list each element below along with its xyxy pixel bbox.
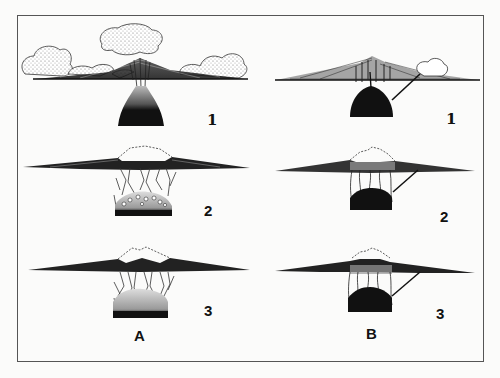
former-summit-outline: [350, 147, 395, 161]
former-summit-outline: [118, 247, 170, 259]
stage-label-b1: 1: [446, 112, 456, 127]
former-summit-outline: [118, 146, 172, 158]
column-label-b: B: [366, 326, 377, 341]
caldera-cone: [28, 258, 250, 272]
stage-label-a2: 2: [204, 203, 212, 218]
flank-dike: [392, 272, 420, 296]
panel-b3: [275, 248, 475, 312]
magma-chamber: [350, 86, 393, 117]
magma-chamber: [350, 188, 392, 210]
panel-a3: [28, 247, 250, 318]
former-summit-outline: [352, 248, 390, 258]
magma-chamber: [118, 86, 164, 126]
column-label-a: A: [134, 328, 145, 343]
stage-label-a3: 3: [204, 303, 212, 318]
stage-label-a1: 1: [207, 113, 217, 128]
panel-a2: [23, 146, 250, 216]
stage-label-b2: 2: [440, 209, 448, 224]
flank-eruption-cloud-icon: [417, 58, 448, 76]
stage-label-b3: 3: [436, 306, 444, 321]
magma-chamber: [348, 287, 392, 312]
panel-b1: [275, 56, 480, 117]
panel-b2: [275, 147, 475, 210]
collapsed-cone: [23, 157, 250, 170]
flank-dike: [393, 170, 418, 192]
volcano-diagram: [0, 0, 500, 378]
